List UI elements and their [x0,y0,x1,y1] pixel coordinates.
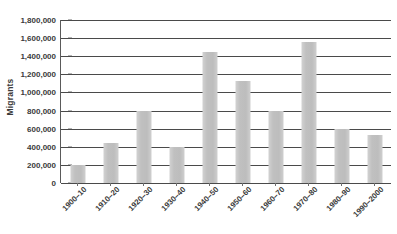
y-axis-tick-label: 1,200,000 [12,70,56,79]
x-axis-tick-label: 1990–2000 [351,185,385,219]
x-axis-tick-mark [341,183,342,186]
x-axis-tick-label: 1980–90 [324,185,352,213]
x-axis-tick-label: 1900–10 [60,185,88,213]
y-axis-tick-label: 800,000 [12,106,56,115]
x-axis-tick-label: 1920–30 [126,185,154,213]
x-axis-tick-labels: 1900–101910–201920–301930–401940–501950–… [60,185,390,234]
bar [202,52,217,183]
y-axis-tick-label: 600,000 [12,124,56,133]
bar-slot [358,20,391,183]
bar-slot [61,20,94,183]
y-axis-tick-labels: 0200,000400,000600,000800,0001,000,0001,… [12,20,56,183]
bar-slot [160,20,193,183]
bar-slot [325,20,358,183]
plot-area [60,20,391,183]
x-axis-tick-mark [176,183,177,186]
x-axis-tick-mark [110,183,111,186]
x-axis-tick-mark [275,183,276,186]
y-axis-tick-label: 400,000 [12,142,56,151]
bar-slot [259,20,292,183]
x-axis-tick-mark [143,183,144,186]
x-axis-tick-label: 1960–70 [258,185,286,213]
x-axis-tick-label: 1940–50 [192,185,220,213]
bar [70,165,85,183]
bar-slot [193,20,226,183]
y-axis-tick-label: 200,000 [12,160,56,169]
y-axis-tick-label: 1,800,000 [12,16,56,25]
x-axis-tick-mark [242,183,243,186]
y-axis-tick-label: 1,400,000 [12,52,56,61]
bar [235,81,250,183]
x-axis-tick-mark [209,183,210,186]
x-axis-tick-mark [374,183,375,186]
x-axis-tick-label: 1950–60 [225,185,253,213]
bar [301,42,316,183]
bar-chart: Migrants 0200,000400,000600,000800,0001,… [0,0,397,234]
bar-slot [127,20,160,183]
bar [136,111,151,183]
x-axis-tick-label: 1910–20 [93,185,121,213]
bar [367,135,382,183]
y-axis-tick-label: 1,000,000 [12,88,56,97]
x-axis-tick-label: 1930–40 [159,185,187,213]
bar [334,129,349,183]
bar [268,111,283,183]
bar [169,147,184,183]
x-axis-tick-label: 1970–80 [291,185,319,213]
bar [103,143,118,183]
bar-series [61,20,391,183]
gridline [61,183,391,184]
x-axis-tick-mark [308,183,309,186]
bar-slot [226,20,259,183]
bar-slot [292,20,325,183]
y-axis-tick-label: 0 [12,179,56,188]
bar-slot [94,20,127,183]
y-axis-tick-label: 1,600,000 [12,34,56,43]
x-axis-tick-mark [77,183,78,186]
